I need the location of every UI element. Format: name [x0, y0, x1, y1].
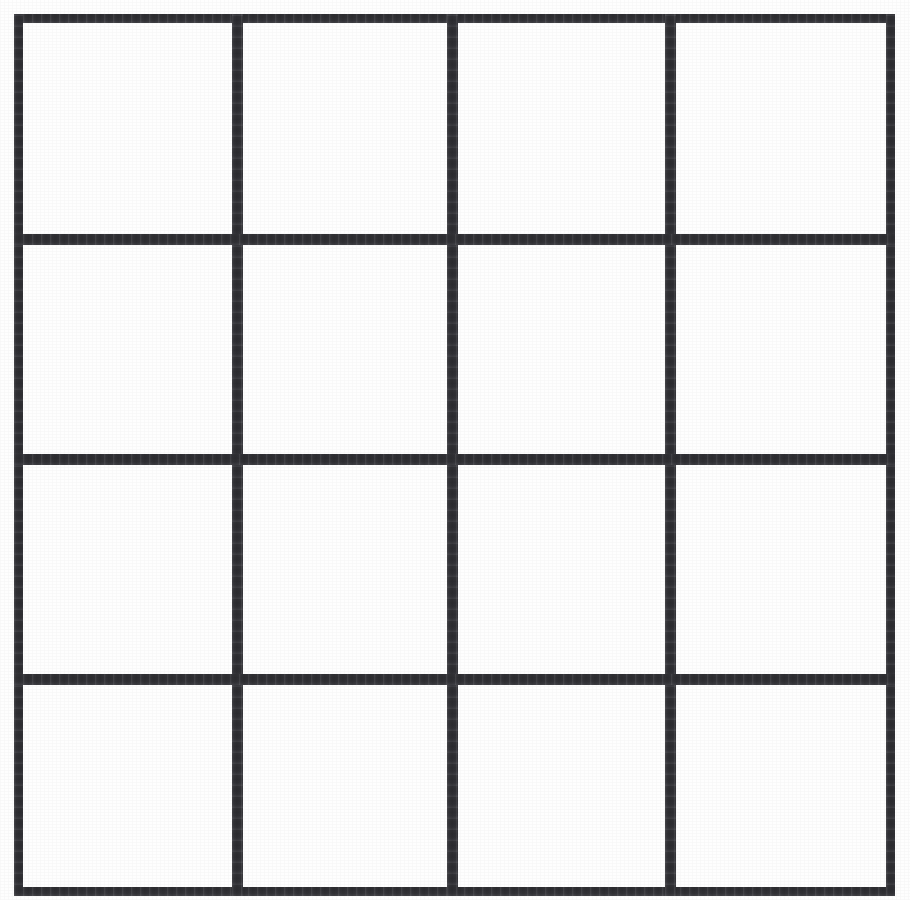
grid-cell-r1c4[interactable] [665, 14, 886, 234]
grid-canvas [0, 0, 910, 900]
grid-cell-r4c4[interactable] [665, 674, 886, 887]
grid-cell-r3c4[interactable] [665, 454, 886, 674]
grid-cell-r4c2[interactable] [232, 674, 447, 887]
horizontal-line-3 [14, 674, 895, 685]
grid-figure [0, 0, 910, 900]
horizontal-line-2 [14, 454, 895, 465]
grid-cell-r2c2[interactable] [232, 234, 447, 454]
grid-cell-r3c3[interactable] [447, 454, 665, 674]
horizontal-line-1 [14, 234, 895, 245]
grid-cell-r4c1[interactable] [14, 674, 232, 887]
grid-cell-r2c1[interactable] [14, 234, 232, 454]
grid-cell-r1c1[interactable] [14, 14, 232, 234]
grid-cell-r3c2[interactable] [232, 454, 447, 674]
grid-cell-r2c3[interactable] [447, 234, 665, 454]
grid-cell-r4c3[interactable] [447, 674, 665, 887]
grid-cell-r2c4[interactable] [665, 234, 886, 454]
grid-cell-r3c1[interactable] [14, 454, 232, 674]
grid-cell-r1c2[interactable] [232, 14, 447, 234]
grid-cell-r1c3[interactable] [447, 14, 665, 234]
